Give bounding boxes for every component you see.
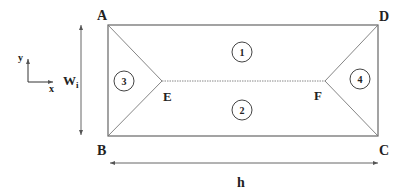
hip-line-a-e <box>108 25 162 81</box>
region-3-marker: 3 <box>114 71 134 91</box>
vertex-b-label: B <box>97 143 106 158</box>
vertex-d-label: D <box>379 9 389 24</box>
region-4-label: 4 <box>358 74 363 85</box>
region-1-label: 1 <box>240 47 245 58</box>
vertex-a-label: A <box>97 8 108 23</box>
width-dimension-label: Wi <box>63 73 79 90</box>
y-axis-label: y <box>18 52 23 63</box>
axes-icon: y x <box>18 52 54 94</box>
hip-line-b-e <box>108 81 162 136</box>
hip-line-d-f <box>325 25 378 81</box>
region-4-marker: 4 <box>350 69 370 89</box>
length-dimension-label: h <box>237 175 245 190</box>
vertex-e-label: E <box>163 89 172 104</box>
region-1-marker: 1 <box>232 42 252 62</box>
region-2-marker: 2 <box>232 100 252 120</box>
hip-line-c-f <box>325 81 378 136</box>
region-3-label: 3 <box>122 76 127 87</box>
vertex-f-label: F <box>314 88 322 103</box>
region-2-label: 2 <box>240 105 245 116</box>
vertex-c-label: C <box>379 143 389 158</box>
x-axis-label: x <box>49 83 54 94</box>
roof-diagram: 1 2 3 4 A B C D E F y x Wi h <box>0 0 409 196</box>
